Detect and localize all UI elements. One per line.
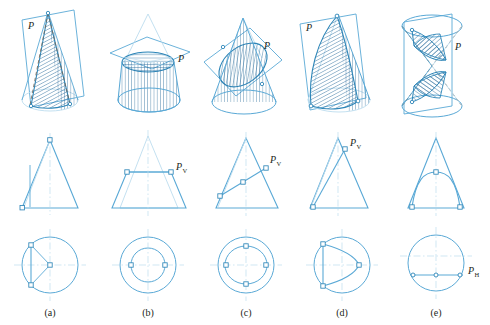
plane-label-b-front-group: P V [175,161,188,174]
apex-marker-a-front [48,138,52,142]
cut-parabola-d-top [323,244,359,286]
panel-c-pictorial: P [204,18,282,114]
plane-label-e-top: P [467,265,474,276]
base-point-a1 [29,104,32,107]
panel-e-pictorial: P [402,14,462,117]
panel-e-front-view [408,132,464,216]
plane-label-d-front: P [349,137,356,148]
panel-b-front-view: P V [112,130,188,216]
panel-b-top-view [112,229,184,301]
caption-e: (e) [430,307,441,319]
cone-frustum-b [118,62,180,112]
caption-a: (a) [44,307,55,319]
base-marker-a-front [20,206,24,210]
panel-d: P P V (d) [300,14,378,319]
panel-a-pictorial: P [22,10,84,111]
plane-label-a: P [27,20,34,31]
plane-label-d-front-group: P V [349,137,362,150]
plane-label-b-front: P [175,161,182,172]
panel-c: P P V (c) [204,18,282,319]
panel-a-front-view [20,133,78,215]
caption-c: (c) [240,307,251,319]
panel-a-top-view [14,229,86,301]
plane-label-c-front: P [269,154,276,165]
plane-label-e-top-sub: H [475,271,480,278]
base-point-a2 [68,102,71,105]
cut-section-e-upper [412,30,446,60]
caption-b: (b) [142,307,154,319]
plane-label-c: P [263,40,270,51]
panel-b: P P V (b) [110,14,190,319]
plane-label-c-front-group: P V [269,154,282,167]
plane-label-b: P [177,53,184,64]
panel-c-top-view [210,229,282,301]
plane-label-c-front-sub: V [277,160,282,167]
panel-d-pictorial: P [300,14,370,112]
panel-d-front-view: P V [310,132,368,216]
panel-d-top-view [306,229,378,301]
panel-e: P P H (e) [400,14,480,319]
plane-label-d-front-sub: V [357,143,362,150]
plane-label-e-top-group: P H [467,265,480,278]
plane-label-d: P [305,22,312,33]
plane-label-e: P [454,41,461,52]
panel-a: P (a) [14,10,86,319]
cut-line-d-front [313,149,345,207]
apex-point-a [46,11,49,14]
panel-b-pictorial: P [110,14,190,112]
plane-label-b-front-sub: V [183,167,188,174]
panel-e-top-view: P H [400,227,480,299]
panel-c-front-view: P V [216,132,282,216]
caption-d: (d) [336,307,348,319]
cut-section-e-lower [412,72,446,102]
conic-sections-figure: P (a) [0,0,490,325]
